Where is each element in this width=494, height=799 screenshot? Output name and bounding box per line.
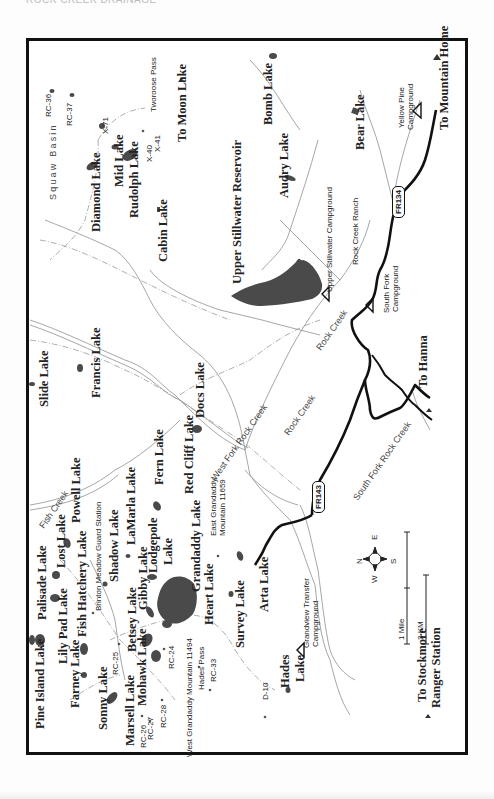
place-label: East Grandaddy <box>210 478 218 536</box>
lake-label: Bear Lake <box>354 94 367 150</box>
lake-mohawk <box>151 650 161 662</box>
compass-n: N <box>356 558 364 564</box>
place-label: Campground <box>312 601 320 647</box>
lake-label: Rudolph Lake <box>128 141 141 218</box>
lake-label: Upper Stillwater Reservoir <box>231 140 244 284</box>
lake-label: Grandaddy Lake <box>190 500 203 592</box>
place-label: To Mountain Home <box>438 26 451 130</box>
lake-label: Audry Lake <box>278 133 291 198</box>
lake-label: Survey Lake <box>234 580 247 648</box>
place-label: To Moon Lake <box>176 64 189 142</box>
lake-label: Mid Lake <box>113 135 126 187</box>
place-label: Brinton Meadow Guard Station <box>95 502 103 611</box>
place-label: RC-27 <box>147 717 155 740</box>
lake-label: Lost Lake <box>55 514 68 568</box>
place-label: Ranger Station <box>430 627 443 708</box>
arrow-icon-hanna <box>426 408 432 412</box>
lake-label: Fern Lake <box>153 429 166 485</box>
place-label: Hades Pass <box>198 647 206 690</box>
road-shield: FR143 <box>312 481 325 513</box>
place-label: Mountain 11659 <box>219 479 227 536</box>
place-label: Grandview Transfer <box>303 578 311 648</box>
lake-upper-stillwater <box>231 259 322 306</box>
lake-label: Shadow Lake <box>108 509 121 582</box>
lake-label: Francis Lake <box>90 328 103 398</box>
lake-label: Fish Hatchery Lake <box>76 531 89 637</box>
lake-label: Diamond Lake <box>90 152 103 232</box>
lake-label: Arta Lake <box>258 557 271 612</box>
page-edge <box>0 790 494 799</box>
lake-label: Bomb Lake <box>262 63 275 125</box>
compass-s: S <box>390 559 398 564</box>
place-label: X-41 <box>154 135 162 152</box>
lake-label: Lake <box>294 655 307 682</box>
lake-lost <box>52 571 60 579</box>
place-label: Campground <box>392 266 400 312</box>
lake-label: Sonny Lake <box>97 666 110 730</box>
place-label: RC-24 <box>168 646 176 669</box>
place-label: RC-36 <box>45 94 53 117</box>
lake-label: Red Cliff Lake <box>183 415 196 494</box>
place-label: RC-33 <box>210 659 218 682</box>
place-label: Rock Creek Ranch <box>352 198 360 265</box>
place-label: D-10 <box>262 683 270 700</box>
lake-shadow <box>103 582 108 587</box>
scale-label-km: 2 KM <box>417 621 425 640</box>
compass-w: W <box>371 575 379 583</box>
lake-lamarla <box>126 554 131 558</box>
place-label: Yellow Pine <box>398 87 406 128</box>
compass-e: E <box>371 535 379 540</box>
lake-heart <box>162 620 172 628</box>
road-shield: FR134 <box>392 186 405 218</box>
place-label: To Hanna <box>417 335 430 388</box>
lake-label: Slide Lake <box>38 350 51 407</box>
place-label: Upper Stillwater Campground <box>326 187 334 292</box>
lake-label: Cabin Lake <box>157 199 170 262</box>
arrow-icon-stockmore <box>425 714 431 718</box>
place-label: Campground <box>407 84 415 130</box>
lake-label: Lake <box>162 538 175 565</box>
lake-label: Palisade Lake <box>36 545 49 620</box>
place-label: RC-37 <box>66 103 74 126</box>
place-label: Tworoose Pass <box>150 57 158 112</box>
lake-label: Powell Lake <box>70 457 83 523</box>
lake-bomb <box>269 53 277 59</box>
lake-label: LaMarla Lake <box>125 467 138 545</box>
lake-slide <box>29 382 35 386</box>
lake-label: Marsell Lake <box>124 675 137 746</box>
lake-label: Mohawk Lake <box>136 629 149 706</box>
scale-label-mile: 1 Mile <box>398 619 406 640</box>
lake-rc37 <box>70 93 75 97</box>
lake-label: Farney Lake <box>69 640 82 708</box>
lake-label: Docs Lake <box>194 362 207 418</box>
place-label: South Fork <box>383 274 391 313</box>
place-label: RC-25 <box>112 652 120 675</box>
lake-label: Hades <box>279 655 292 688</box>
lake-label: Pine Island Lake <box>34 639 47 729</box>
place-label: RC-28 <box>160 705 168 728</box>
place-label: West Grandaddy Mountain 11494 <box>186 638 194 757</box>
lake-rc36 <box>50 89 55 93</box>
place-label: X-71 <box>102 117 110 134</box>
lake-arta <box>235 550 244 561</box>
water-label: Squaw Basin <box>49 123 58 200</box>
lake-fern <box>151 500 162 512</box>
compass-icon <box>363 547 387 571</box>
lake-francis <box>77 364 83 372</box>
lake-label: Heart Lake <box>203 564 216 625</box>
